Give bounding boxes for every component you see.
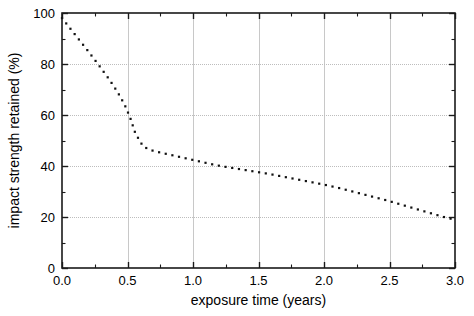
y-tick-label: 0	[48, 261, 55, 276]
data-point-dot	[158, 151, 160, 153]
data-point-dot	[151, 149, 153, 151]
data-point-dot	[325, 184, 327, 186]
data-point-dot	[417, 208, 419, 210]
data-point-dot	[371, 195, 373, 197]
data-point-dot	[318, 183, 320, 185]
data-point-dot	[129, 118, 131, 120]
data-point-dot	[140, 143, 142, 145]
data-point-dot	[384, 199, 386, 201]
data-point-dot	[82, 44, 84, 46]
data-point-dot	[86, 49, 88, 51]
data-point-dot	[331, 185, 333, 187]
data-point-dot	[338, 187, 340, 189]
data-point-dot	[99, 65, 101, 67]
data-point-dot	[74, 33, 76, 35]
data-point-dot	[132, 124, 134, 126]
data-point-dot	[430, 212, 432, 214]
x-tick-label: 2.5	[380, 273, 398, 288]
data-point-dot	[137, 137, 139, 139]
data-point-dot	[178, 156, 180, 158]
data-point-dot	[65, 22, 67, 24]
data-point-dot	[90, 54, 92, 56]
y-tick-label: 100	[33, 6, 55, 21]
y-tick-label: 60	[41, 108, 55, 123]
data-point-dot	[345, 189, 347, 191]
data-point-dot	[185, 157, 187, 159]
x-tick-label: 0.5	[118, 273, 136, 288]
data-point-dot	[364, 194, 366, 196]
data-point-dot	[94, 60, 96, 62]
data-point-dot	[191, 159, 193, 161]
data-point-dot	[114, 88, 116, 90]
x-tick-label: 1.0	[184, 273, 202, 288]
data-point-dot	[298, 179, 300, 181]
y-axis-title: impact strength retained (%)	[6, 53, 22, 229]
data-point-dot	[110, 82, 112, 84]
x-tick-label: 0.0	[53, 273, 71, 288]
data-point-dot	[107, 76, 109, 78]
y-tick-label: 40	[41, 159, 55, 174]
data-point-dot	[443, 216, 445, 218]
data-point-dot	[245, 169, 247, 171]
y-tick-label: 80	[41, 57, 55, 72]
data-point-dot	[251, 170, 253, 172]
x-axis-title: exposure time (years)	[191, 292, 326, 308]
data-point-dot	[231, 167, 233, 169]
data-point-dot	[423, 210, 425, 212]
chart-figure: 0.00.51.01.52.02.53.0 020406080100 expos…	[0, 0, 474, 316]
data-point-dot	[127, 111, 129, 113]
data-point-dot	[397, 203, 399, 205]
data-point-dot	[165, 153, 167, 155]
data-point-dot	[204, 162, 206, 164]
x-tick-label: 1.5	[249, 273, 267, 288]
data-point-dot	[404, 205, 406, 207]
data-point-dot	[265, 172, 267, 174]
data-point-dot	[378, 197, 380, 199]
data-point-dot	[305, 180, 307, 182]
data-point-dot	[271, 173, 273, 175]
data-point-dot	[118, 93, 120, 95]
data-point-dot	[285, 176, 287, 178]
data-point-dot	[103, 71, 105, 73]
data-point-dot	[311, 181, 313, 183]
data-point-dot	[211, 163, 213, 165]
x-tick-label: 3.0	[446, 273, 464, 288]
data-point-dot	[218, 165, 220, 167]
data-point-dot	[238, 168, 240, 170]
data-point-dot	[78, 38, 80, 40]
impact-strength-decay-chart: 0.00.51.01.52.02.53.0 020406080100 expos…	[0, 0, 474, 316]
data-point-dot	[358, 192, 360, 194]
data-point-dot	[124, 105, 126, 107]
data-point-dot	[69, 28, 71, 30]
data-point-dot	[410, 206, 412, 208]
data-point-dot	[436, 214, 438, 216]
data-point-dot	[258, 171, 260, 173]
y-tick-label: 20	[41, 210, 55, 225]
x-tick-label: 2.0	[315, 273, 333, 288]
data-point-dot	[171, 154, 173, 156]
data-point-dot	[351, 190, 353, 192]
data-point-dot	[198, 160, 200, 162]
data-point-dot	[278, 175, 280, 177]
data-point-dot	[145, 147, 147, 149]
data-point-dot	[224, 166, 226, 168]
data-point-dot	[121, 99, 123, 101]
data-point-dot	[391, 201, 393, 203]
data-point-dot	[134, 131, 136, 133]
data-point-dot	[291, 177, 293, 179]
